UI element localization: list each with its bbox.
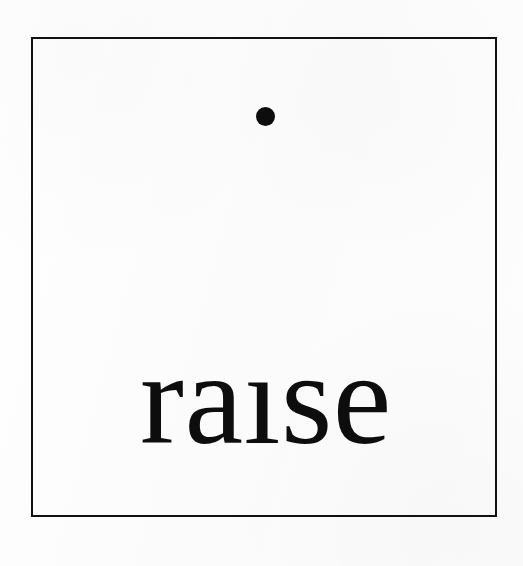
- artwork-canvas: raıse: [0, 0, 523, 566]
- raised-i-dot: [256, 107, 275, 126]
